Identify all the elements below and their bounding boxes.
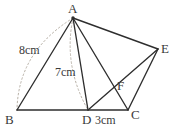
vertex-label-D: D: [82, 113, 91, 126]
vertex-dot-A: [71, 16, 74, 19]
length-label-ab: 8cm: [19, 44, 40, 56]
construction-arcs: [17, 18, 88, 110]
segment-C-E: [128, 49, 158, 110]
segment-A-B: [17, 18, 73, 110]
vertex-label-F: F: [117, 79, 124, 92]
geometry-figure: A B C D E F 8cm 7cm 3cm: [0, 0, 175, 129]
vertex-dots: [71, 16, 74, 19]
vertex-label-C: C: [131, 108, 140, 121]
figure-edges: [17, 18, 158, 110]
geometry-canvas: [0, 0, 175, 129]
length-label-dc: 3cm: [95, 114, 116, 126]
vertex-label-A: A: [68, 2, 77, 15]
length-label-ad: 7cm: [55, 66, 76, 78]
vertex-label-E: E: [161, 42, 169, 55]
segment-A-E: [73, 18, 158, 49]
vertex-label-B: B: [5, 113, 14, 126]
